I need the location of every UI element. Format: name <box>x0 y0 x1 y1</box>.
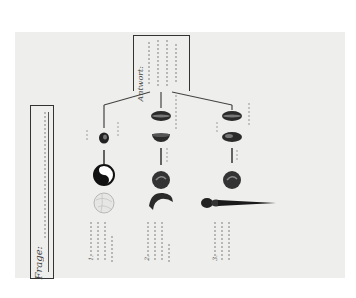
row-3-caption-c <box>236 150 238 162</box>
row-1-line-3 <box>104 222 106 262</box>
tadpole-larva-icon <box>201 198 276 208</box>
row-3-figures <box>200 106 280 216</box>
row-3-caption-b <box>216 122 218 134</box>
row-1-figures <box>90 128 120 218</box>
dark-round-embryo-icon <box>223 171 241 189</box>
row-3-line-3 <box>228 222 230 262</box>
row-1-small-caption-2 <box>117 122 119 138</box>
row-2-line-1 <box>147 222 149 256</box>
row-2-caption-a <box>175 95 177 129</box>
row-2-line-4 <box>168 244 170 262</box>
row-3-line-1 <box>214 222 216 256</box>
row-3-line-2 <box>221 222 223 262</box>
row-2-line-3 <box>161 222 163 262</box>
row-3-caption-a <box>248 103 250 125</box>
row-1-line-1 <box>90 222 92 256</box>
row-2-figures <box>145 106 179 222</box>
row-1-line-2 <box>97 222 99 262</box>
row-2-line-2 <box>154 222 156 262</box>
dark-round-embryo-icon <box>152 171 170 189</box>
row-1-line-4 <box>111 236 113 262</box>
row-1-small-caption <box>86 130 88 142</box>
pale-cleaved-egg-icon <box>94 193 114 213</box>
curved-embryo-icon <box>149 193 173 210</box>
row-2-caption-b <box>166 148 168 164</box>
